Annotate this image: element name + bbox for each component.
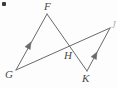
arrow-on-GF bbox=[25, 41, 34, 50]
vertex-label-G: G bbox=[5, 69, 13, 80]
segment-G-F bbox=[16, 14, 47, 70]
vertex-label-J: J bbox=[111, 19, 116, 30]
arrow-marks-group bbox=[25, 41, 100, 60]
segment-F-K bbox=[47, 14, 87, 71]
figure-canvas bbox=[0, 0, 117, 88]
vertex-label-K: K bbox=[82, 73, 89, 84]
arrow-on-KJ bbox=[91, 51, 100, 60]
vertex-label-H: H bbox=[64, 50, 72, 61]
vertex-label-F: F bbox=[44, 1, 51, 12]
segment-K-J bbox=[87, 28, 110, 71]
geometry-figure: F G H K J bbox=[0, 0, 117, 88]
